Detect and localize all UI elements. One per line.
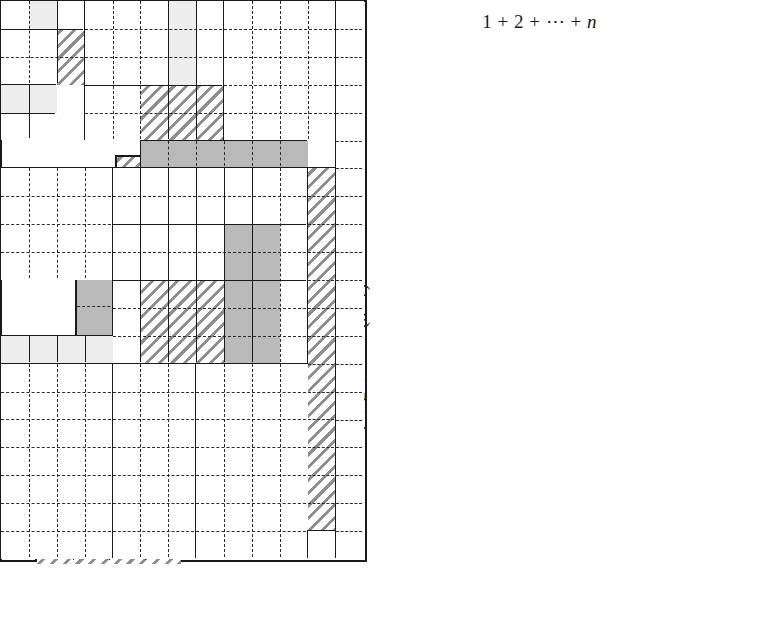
cell-hatch (308, 168, 336, 531)
cell-light (168, 1, 196, 85)
cell-light (1, 85, 29, 113)
cell-white (336, 1, 364, 559)
cell-white (1, 364, 113, 559)
cell-light (1, 336, 113, 364)
cell-white (113, 364, 197, 559)
cell-white (57, 1, 85, 29)
figure-canvas: 1 + 2 + ⋯ + n 1 + 2 + ⋯ + (n+1) (0, 0, 775, 638)
blk-r14c1-order4 (0, 363, 112, 558)
cell-white (1, 1, 29, 29)
cell-gray (224, 224, 280, 364)
blk-r1c4-order5 (84, 0, 224, 140)
cell-hatch (140, 85, 224, 141)
blk-r7c1-order4 (0, 167, 112, 279)
blk-r7c12-hatch-col (307, 167, 335, 530)
cell-light (29, 85, 57, 113)
blk-col13 (335, 0, 363, 558)
blk-r1c1-order3 (0, 0, 84, 84)
cell-hatch (57, 29, 85, 85)
cell-white (196, 364, 308, 559)
blk-r14c5-rest (112, 363, 196, 558)
cell-gray (77, 270, 113, 342)
top-axis-label: 1 + 2 + ⋯ + n (482, 10, 597, 33)
cell-hatch (140, 280, 224, 364)
cell-gray (141, 141, 308, 169)
cell-white (1, 29, 57, 85)
main-rectangle (0, 0, 367, 562)
blk-r4c1-order2 (0, 84, 56, 140)
cell-white (1, 168, 113, 280)
cell-light (29, 1, 57, 29)
cell-white (1, 113, 57, 141)
blk-r7c5-order7 (112, 167, 307, 362)
blk-r14c8-rest (195, 363, 307, 558)
cell-white (308, 531, 336, 559)
blk-r6-gray-bar (140, 140, 307, 168)
blk-r20c12-white (307, 530, 335, 558)
blk-r12c1-light-bar (0, 335, 112, 363)
